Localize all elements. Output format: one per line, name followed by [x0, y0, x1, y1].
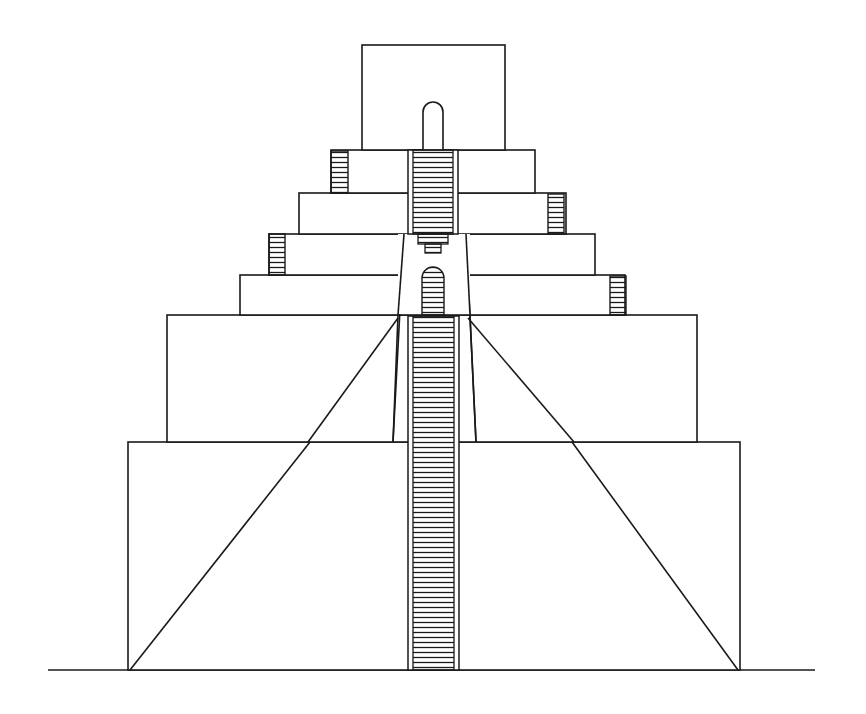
side-stair-left-2 [331, 151, 348, 193]
central-stair [413, 316, 454, 670]
ziggurat-elevation [0, 0, 866, 714]
upper-stair-landing [418, 234, 448, 244]
side-stair-right-1 [610, 276, 626, 315]
side-stair-right-2 [548, 194, 564, 234]
side-stair-left-1 [269, 234, 285, 275]
upper-stair-step [425, 244, 441, 253]
arched-stair [422, 267, 444, 315]
ziggurat-diagram [0, 0, 866, 714]
upper-stair [413, 150, 453, 234]
shrine-doorway [423, 102, 443, 150]
